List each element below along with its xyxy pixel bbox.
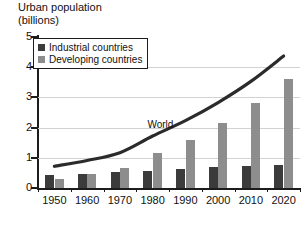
bar-developing-1950 bbox=[55, 179, 64, 188]
y-tick-label-1: 1 bbox=[20, 152, 32, 163]
x-tick-2010 bbox=[235, 188, 236, 192]
bar-industrial-1990 bbox=[176, 169, 185, 188]
legend-entry-developing: Developing countries bbox=[38, 53, 142, 65]
x-tick-label-1980: 1980 bbox=[140, 194, 164, 206]
legend-swatch-industrial-icon bbox=[38, 44, 45, 51]
bar-developing-2000 bbox=[218, 123, 227, 188]
bar-developing-1980 bbox=[153, 153, 162, 188]
x-tick-label-2000: 2000 bbox=[206, 194, 230, 206]
y-tick-label-3: 3 bbox=[20, 91, 32, 102]
x-tick-1950 bbox=[38, 188, 39, 192]
bar-developing-2010 bbox=[251, 103, 260, 188]
bar-industrial-1980 bbox=[143, 171, 152, 188]
y-tick-label-0: 0 bbox=[20, 182, 32, 193]
y-tick-label-4: 4 bbox=[20, 61, 32, 72]
x-tick-label-2020: 2020 bbox=[271, 194, 295, 206]
x-tick-2000 bbox=[202, 188, 203, 192]
y-tick-3 bbox=[31, 96, 38, 98]
x-tick-label-2010: 2010 bbox=[239, 194, 263, 206]
chart-title-line-1: Urban population bbox=[18, 1, 102, 14]
x-tick-2020 bbox=[267, 188, 268, 192]
bar-developing-1990 bbox=[186, 140, 195, 188]
bar-industrial-2010 bbox=[242, 166, 251, 188]
bar-industrial-1960 bbox=[78, 174, 87, 188]
legend-swatch-developing-icon bbox=[38, 56, 45, 63]
y-tick-label-2: 2 bbox=[20, 122, 32, 133]
bar-industrial-2000 bbox=[209, 167, 218, 188]
x-tick-1980 bbox=[136, 188, 137, 192]
chart-title: Urban population (billions) bbox=[18, 1, 102, 27]
bar-industrial-1970 bbox=[111, 172, 120, 188]
chart-legend: Industrial countries Developing countrie… bbox=[33, 38, 148, 69]
x-tick-label-1950: 1950 bbox=[42, 194, 66, 206]
bar-industrial-2020 bbox=[274, 165, 283, 188]
y-tick-label-5: 5 bbox=[20, 31, 32, 42]
bar-developing-1960 bbox=[87, 174, 96, 188]
chart-figure: Urban population (billions) 012345 World… bbox=[0, 0, 308, 231]
bar-developing-2020 bbox=[284, 79, 293, 188]
x-tick-label-1960: 1960 bbox=[75, 194, 99, 206]
bar-developing-1970 bbox=[120, 168, 129, 188]
x-tick-1970 bbox=[104, 188, 105, 192]
chart-title-line-2: (billions) bbox=[18, 14, 102, 27]
x-tick-label-1970: 1970 bbox=[108, 194, 132, 206]
legend-entry-industrial: Industrial countries bbox=[38, 41, 142, 53]
x-tick-end bbox=[300, 188, 301, 192]
legend-label-developing: Developing countries bbox=[49, 54, 142, 65]
y-tick-2 bbox=[31, 127, 38, 129]
x-tick-label-1990: 1990 bbox=[173, 194, 197, 206]
x-tick-1960 bbox=[71, 188, 72, 192]
y-tick-1 bbox=[31, 157, 38, 159]
y-tick-0 bbox=[31, 187, 38, 189]
x-tick-1990 bbox=[169, 188, 170, 192]
world-line-label: World bbox=[147, 120, 173, 130]
bar-industrial-1950 bbox=[45, 175, 54, 188]
legend-label-industrial: Industrial countries bbox=[49, 42, 133, 53]
